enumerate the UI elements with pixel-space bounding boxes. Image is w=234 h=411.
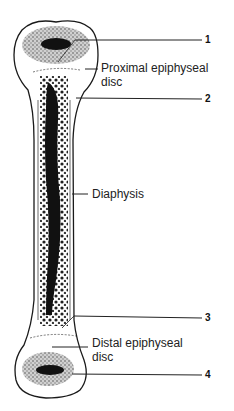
label-3: 3 (205, 312, 211, 323)
label-2: 2 (205, 93, 211, 104)
label-proximal-line1: Proximal epiphyseal (101, 62, 208, 75)
label-1: 1 (205, 34, 211, 45)
label-proximal-line2: disc (101, 76, 122, 89)
label-distal-line1: Distal epiphyseal (92, 337, 183, 350)
leader-2 (76, 98, 202, 99)
label-diaphysis: Diaphysis (92, 188, 144, 201)
label-distal-line2: disc (92, 351, 113, 364)
leader-4 (72, 374, 202, 375)
leader-3 (74, 316, 202, 318)
label-4: 4 (205, 369, 211, 380)
